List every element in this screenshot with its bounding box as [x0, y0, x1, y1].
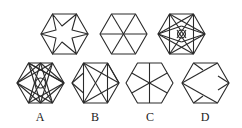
option-label-a: A — [36, 110, 45, 125]
question-figure-3 — [158, 14, 205, 54]
option-figure-a[interactable] — [17, 63, 64, 103]
option-figure-c[interactable] — [126, 63, 173, 103]
question-figure-2 — [100, 14, 147, 54]
figure-canvas — [0, 0, 242, 128]
option-label-c: C — [146, 110, 154, 125]
option-label-b: B — [91, 110, 99, 125]
option-figure-d[interactable] — [182, 63, 229, 103]
question-figure-1 — [41, 14, 88, 54]
option-label-d: D — [201, 110, 210, 125]
option-figure-b[interactable] — [72, 63, 119, 103]
